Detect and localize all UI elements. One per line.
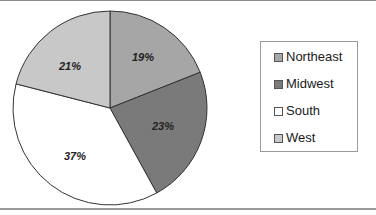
legend-swatch-northeast bbox=[274, 53, 283, 62]
legend-swatch-west bbox=[274, 134, 283, 143]
legend-swatch-south bbox=[274, 107, 283, 116]
slice-label-northeast: 19% bbox=[132, 51, 154, 63]
legend-label-west: West bbox=[286, 130, 315, 146]
legend-label-midwest: Midwest bbox=[286, 76, 334, 92]
chart-legend: Northeast Midwest South West bbox=[260, 41, 358, 152]
slice-label-south: 37% bbox=[64, 150, 86, 162]
legend-label-northeast: Northeast bbox=[286, 49, 342, 65]
pie-slices bbox=[13, 11, 207, 205]
legend-swatch-midwest bbox=[274, 80, 283, 89]
legend-item-midwest: Midwest bbox=[274, 76, 334, 92]
legend-item-west: West bbox=[274, 130, 315, 146]
legend-item-south: South bbox=[274, 103, 320, 119]
legend-item-northeast: Northeast bbox=[274, 49, 342, 65]
legend-label-south: South bbox=[286, 103, 320, 119]
slice-label-west: 21% bbox=[58, 60, 81, 72]
slice-label-midwest: 23% bbox=[151, 120, 174, 132]
